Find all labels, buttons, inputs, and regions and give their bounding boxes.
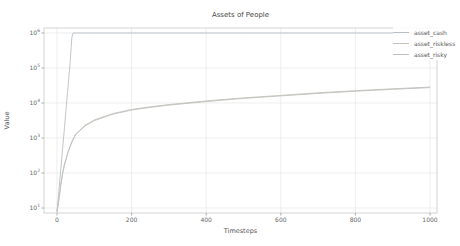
legend-item-asset-cash: asset_cash: [393, 27, 455, 38]
y-tick-label: 101: [18, 204, 40, 212]
legend-label: asset_cash: [414, 29, 447, 36]
legend-item-asset-riskless: asset_riskless: [393, 38, 455, 49]
x-tick-label: 400: [200, 216, 211, 223]
x-tick-label: 800: [350, 216, 361, 223]
plot-area: [0, 0, 460, 246]
x-tick-label: 200: [126, 216, 137, 223]
legend-line-icon: [393, 32, 409, 33]
legend: asset_cash asset_riskless asset_risky: [393, 27, 455, 60]
y-tick-label: 104: [18, 99, 40, 107]
x-tick-label: 600: [275, 216, 286, 223]
legend-line-icon: [393, 54, 409, 55]
y-tick-label: 105: [18, 64, 40, 72]
legend-label: asset_risky: [414, 51, 447, 58]
y-tick-label: 102: [18, 169, 40, 177]
chart-figure: Assets of People Value Timesteps 1061051…: [0, 0, 460, 246]
legend-line-icon: [393, 43, 409, 44]
series-line-asset_cash: [57, 33, 430, 211]
x-tick-label: 1000: [422, 216, 437, 223]
legend-label: asset_riskless: [414, 40, 455, 47]
legend-item-asset-risky: asset_risky: [393, 49, 455, 60]
series-line-asset_risky: [57, 88, 430, 213]
x-tick-label: 0: [55, 216, 59, 223]
y-tick-label: 103: [18, 134, 40, 142]
y-tick-label: 106: [18, 29, 40, 37]
series-line-asset_riskless: [57, 87, 430, 211]
